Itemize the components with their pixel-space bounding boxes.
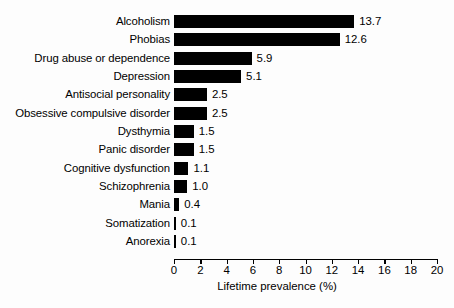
bar-row: Obsessive compulsive disorder2.5 [0, 107, 454, 125]
bar-row: Schizophrenia1.0 [0, 180, 454, 198]
bar-category-label: Mania [139, 198, 170, 211]
bar [174, 162, 188, 175]
bar-category-label: Obsessive compulsive disorder [15, 107, 170, 120]
bar [174, 198, 179, 211]
bar-chart: Alcoholism13.7Phobias12.6Drug abuse or d… [0, 0, 454, 308]
bar-category-label: Phobias [130, 33, 170, 46]
bar-row: Cognitive dysfunction1.1 [0, 162, 454, 180]
bar-value-label: 5.1 [246, 70, 262, 83]
bar-category-label: Anorexia [126, 235, 170, 248]
bar [174, 33, 340, 46]
bar-category-label: Antisocial personality [65, 88, 170, 101]
bar-row: Panic disorder1.5 [0, 143, 454, 161]
bar-row: Alcoholism13.7 [0, 15, 454, 33]
bar-category-label: Schizophrenia [99, 180, 170, 193]
bar-row: Phobias12.6 [0, 33, 454, 51]
bar [174, 107, 207, 120]
bar-value-label: 2.5 [212, 107, 228, 120]
bar [174, 235, 176, 248]
bar-row: Antisocial personality2.5 [0, 88, 454, 106]
bar-value-label: 0.1 [181, 235, 197, 248]
x-axis-title: Lifetime prevalence (%) [0, 280, 454, 292]
bar-category-label: Depression [113, 70, 170, 83]
bar-category-label: Somatization [105, 217, 170, 230]
bar [174, 143, 194, 156]
bar-value-label: 0.1 [181, 217, 197, 230]
bar-row: Somatization0.1 [0, 217, 454, 235]
bar-value-label: 1.5 [199, 125, 215, 138]
bar [174, 15, 354, 28]
bar-category-label: Drug abuse or dependence [34, 52, 170, 65]
bar-row: Anorexia0.1 [0, 235, 454, 253]
bar-value-label: 1.5 [199, 143, 215, 156]
bar-rows: Alcoholism13.7Phobias12.6Drug abuse or d… [0, 15, 454, 253]
bar-value-label: 1.1 [193, 162, 209, 175]
bar [174, 88, 207, 101]
bar-value-label: 1.0 [192, 180, 208, 193]
bar-category-label: Panic disorder [99, 143, 170, 156]
bar-value-label: 5.9 [257, 52, 273, 65]
bar [174, 125, 194, 138]
bar [174, 52, 252, 65]
bar-value-label: 0.4 [184, 198, 200, 211]
bar-category-label: Alcoholism [116, 15, 170, 28]
bar-value-label: 12.6 [345, 33, 367, 46]
bar-value-label: 13.7 [359, 15, 381, 28]
bar [174, 180, 187, 193]
x-axis-tick-label: 20 [422, 264, 452, 277]
bar [174, 217, 176, 230]
bar-category-label: Dysthymia [118, 125, 170, 138]
bar [174, 70, 241, 83]
bar-row: Dysthymia1.5 [0, 125, 454, 143]
bar-category-label: Cognitive dysfunction [64, 162, 170, 175]
bar-row: Mania0.4 [0, 198, 454, 216]
bar-row: Drug abuse or dependence5.9 [0, 52, 454, 70]
bar-row: Depression5.1 [0, 70, 454, 88]
bar-value-label: 2.5 [212, 88, 228, 101]
